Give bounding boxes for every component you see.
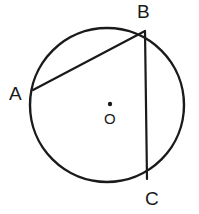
vertex-label-c: C xyxy=(145,189,159,208)
center-label-o: O xyxy=(104,111,116,126)
vertex-label-a: A xyxy=(9,84,22,103)
center-dot xyxy=(108,102,112,106)
chord-ab-line xyxy=(33,31,145,90)
circle-diagram-canvas xyxy=(0,0,199,214)
vertex-label-b: B xyxy=(137,2,150,21)
geometry-figure: A B C O xyxy=(0,0,199,214)
chord-bc-line xyxy=(145,31,147,179)
